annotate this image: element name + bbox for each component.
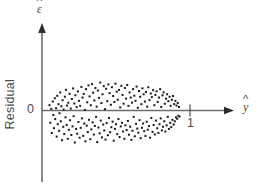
x-tick-label-1: 1 — [187, 117, 194, 130]
scatter-point — [53, 127, 55, 129]
scatter-point — [168, 128, 170, 130]
x-axis-arrowhead — [224, 107, 234, 115]
scatter-point — [117, 118, 119, 120]
scatter-point — [129, 91, 131, 93]
scatter-point — [171, 99, 173, 101]
scatter-point — [166, 124, 168, 126]
scatter-point — [89, 138, 91, 140]
scatter-point — [124, 124, 126, 126]
scatter-point — [136, 86, 138, 88]
scatter-point — [88, 119, 90, 121]
scatter-point — [87, 84, 89, 86]
y-glyph: y — [243, 101, 248, 113]
scatter-point — [67, 102, 69, 104]
scatter-point — [162, 126, 164, 128]
scatter-point — [156, 90, 158, 92]
scatter-point — [72, 125, 74, 127]
scatter-point — [96, 106, 98, 108]
scatter-point — [136, 128, 138, 130]
scatter-point — [148, 125, 150, 127]
scatter-point — [144, 101, 146, 103]
scatter-point — [142, 122, 144, 124]
scatter-point — [99, 82, 101, 84]
plot-canvas — [0, 0, 268, 188]
scatter-point — [122, 94, 124, 96]
scatter-point — [73, 102, 75, 104]
scatter-point — [57, 103, 59, 105]
scatter-point — [173, 124, 175, 126]
scatter-point — [134, 135, 136, 137]
scatter-point — [158, 97, 160, 99]
scatter-point — [109, 92, 111, 94]
scatter-point — [78, 100, 80, 102]
scatter-point — [56, 95, 58, 97]
scatter-point — [52, 101, 54, 103]
scatter-point — [102, 124, 104, 126]
scatter-point — [126, 129, 128, 131]
scatter-point — [70, 134, 72, 136]
scatter-point — [125, 98, 127, 100]
scatter-point — [63, 133, 65, 135]
scatter-point — [133, 116, 135, 118]
scatter-point — [160, 106, 162, 108]
scatter-point — [55, 107, 57, 109]
scatter-point — [128, 134, 130, 136]
scatter-point — [157, 101, 159, 103]
scatter-point — [61, 139, 63, 141]
scatter-point — [154, 133, 156, 135]
scatter-point — [104, 108, 106, 110]
scatter-point — [132, 130, 134, 132]
scatter-point — [77, 90, 79, 92]
scatter-point — [59, 112, 61, 114]
scatter-point — [150, 93, 152, 95]
scatter-point — [108, 117, 110, 119]
scatter-point — [158, 123, 160, 125]
scatter-point — [52, 114, 54, 116]
scatter-point — [140, 137, 142, 139]
scatter-point — [116, 133, 118, 135]
scatter-point — [153, 124, 155, 126]
y-tick-label-0: 0 — [27, 103, 34, 116]
scatter-point — [153, 104, 155, 106]
scatter-point — [115, 123, 117, 125]
scatter-point — [68, 129, 70, 131]
scatter-point — [137, 107, 139, 109]
scatter-point — [49, 122, 51, 124]
scatter-point — [103, 129, 105, 131]
scatter-point — [94, 125, 96, 127]
scatter-point — [107, 83, 109, 85]
scatter-point — [135, 100, 137, 102]
scatter-point — [60, 105, 62, 107]
scatter-point — [74, 142, 76, 144]
scatter-point — [62, 126, 64, 128]
scatter-point — [118, 89, 120, 91]
scatter-point — [113, 101, 115, 103]
scatter-point — [124, 87, 126, 89]
scatter-point — [154, 94, 156, 96]
scatter-point — [56, 136, 58, 138]
scatter-point — [65, 89, 67, 91]
scatter-point — [167, 116, 169, 118]
scatter-point — [130, 97, 132, 99]
scatter-point — [123, 103, 125, 105]
residual-plot-figure: Residual 0 1 ε y — [0, 0, 268, 188]
scatter-point — [60, 120, 62, 122]
scatter-point — [119, 106, 121, 108]
scatter-point — [143, 93, 145, 95]
scatter-point — [146, 106, 148, 108]
scatter-point — [139, 96, 141, 98]
scatter-point — [147, 86, 149, 88]
scatter-point — [91, 83, 93, 85]
scatter-point — [164, 103, 166, 105]
scatter-point — [72, 87, 74, 89]
scatter-point — [51, 132, 53, 134]
scatter-point — [129, 126, 131, 128]
scatter-point — [71, 98, 73, 100]
scatter-point — [87, 131, 89, 133]
scatter-point — [163, 120, 165, 122]
scatter-point — [67, 138, 69, 140]
scatter-point — [81, 97, 83, 99]
scatter-point — [93, 134, 95, 136]
scatter-point — [173, 103, 175, 105]
scatter-point — [133, 95, 135, 97]
